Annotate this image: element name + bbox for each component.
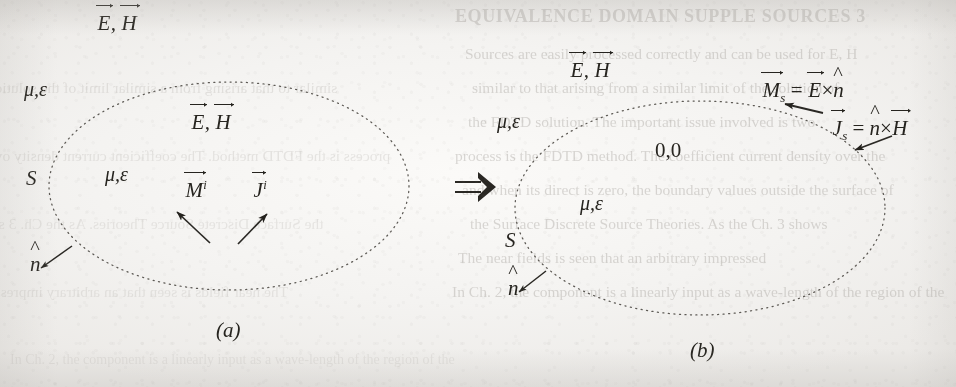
epsilon-symbol: ε xyxy=(512,110,520,132)
js-symbol: J xyxy=(832,116,842,141)
bleed-heading: EQUIVALENCE DOMAIN SUPPLE SOURCES 3 xyxy=(455,6,866,27)
h-field-symbol: H xyxy=(215,110,231,135)
scan-vignette xyxy=(0,0,956,387)
impressed-magnetic-label-a: Mi xyxy=(185,178,207,203)
equals-sign: = xyxy=(791,78,803,102)
js-subscript: s xyxy=(842,128,847,143)
bleed-line: similar to that arising from a similar l… xyxy=(0,79,337,97)
h-field-symbol: H xyxy=(121,11,137,36)
impressed-electric-label-a: Ji xyxy=(253,178,267,203)
normal-label-a: n xyxy=(30,252,41,277)
e-field-symbol: E xyxy=(97,11,111,36)
normal-arrow-a xyxy=(41,246,72,268)
boundary-ellipse-b xyxy=(515,101,885,315)
bleed-line: process is the FDTD method. The coeffici… xyxy=(0,147,390,165)
bleed-line: and when its direct is zero, the boundar… xyxy=(462,181,894,199)
h-field-symbol: H xyxy=(594,58,610,83)
e-field-symbol: E xyxy=(570,58,584,83)
interior-medium-label-a: μ,ε xyxy=(105,163,128,186)
m-source-superscript: i xyxy=(203,178,207,192)
cross-product-sign: × xyxy=(821,78,833,102)
interior-fields-label-a: E, H xyxy=(191,110,231,135)
interior-medium-label-b: μ,ε xyxy=(580,192,603,215)
field-comma: , xyxy=(584,58,589,82)
mu-symbol: μ xyxy=(105,163,115,185)
j-source-superscript: i xyxy=(263,178,267,192)
exterior-medium-label-b: μ,ε xyxy=(497,110,520,133)
normal-arrow-b xyxy=(519,271,546,292)
equals-sign: = xyxy=(852,116,864,140)
figure-canvas: EQUIVALENCE DOMAIN SUPPLE SOURCES 3 Sour… xyxy=(0,0,956,387)
normal-label-b: n xyxy=(508,276,519,301)
mu-symbol: μ xyxy=(497,110,507,132)
bleed-line: Sources are easily processed correctly a… xyxy=(465,45,858,63)
exterior-medium-label-a: μ,ε xyxy=(24,78,47,101)
epsilon-symbol: ε xyxy=(39,78,47,100)
ms-subscript: s xyxy=(780,90,785,105)
impressed-magnetic-arrow-a xyxy=(177,212,210,243)
bleed-line: the FDTD solution. The important issue i… xyxy=(468,113,815,131)
equation-electric-surface-current: Js = n×H xyxy=(832,116,908,144)
bleed-line: the Surface Discrete Source Theories. As… xyxy=(0,215,323,233)
epsilon-symbol: ε xyxy=(120,163,128,185)
impressed-electric-arrow-a xyxy=(238,214,267,244)
bleed-line: In Ch. 2, the component is a linearly in… xyxy=(10,352,455,368)
field-comma: , xyxy=(205,110,210,134)
e-field-symbol: E xyxy=(808,78,822,103)
n-hat-symbol: n xyxy=(870,116,881,141)
surface-label-a: S xyxy=(26,166,37,191)
cross-product-sign: × xyxy=(880,116,892,140)
caption-b: (b) xyxy=(690,338,715,363)
exterior-fields-label-a: E, H xyxy=(97,11,137,36)
n-hat-symbol: n xyxy=(30,252,41,277)
mu-symbol: μ xyxy=(580,192,590,214)
mu-symbol: μ xyxy=(24,78,34,100)
exterior-fields-label-b: E, H xyxy=(570,58,610,83)
m-source-symbol: M xyxy=(185,178,203,203)
paper-grain-texture xyxy=(0,0,956,387)
field-comma: , xyxy=(111,11,116,35)
implication-arrow xyxy=(455,172,496,202)
epsilon-symbol: ε xyxy=(595,192,603,214)
h-field-symbol: H xyxy=(892,116,908,141)
surface-label-b: S xyxy=(505,228,516,253)
bleed-line: the Surface Discrete Source Theories. As… xyxy=(470,215,827,233)
j-source-symbol: J xyxy=(253,178,263,203)
bleed-line: In Ch. 2, the component is a linearly in… xyxy=(452,283,944,301)
n-hat-symbol: n xyxy=(833,78,844,103)
bleed-line: The near fields is seen that an arbitrar… xyxy=(0,283,288,301)
equation-magnetic-surface-current: Ms = E×n xyxy=(762,78,844,106)
figure-vector-overlay xyxy=(0,0,956,387)
caption-a: (a) xyxy=(216,318,241,343)
e-field-symbol: E xyxy=(191,110,205,135)
ms-symbol: M xyxy=(762,78,780,103)
interior-fields-label-b: 0,0 xyxy=(655,138,681,163)
n-hat-symbol: n xyxy=(508,276,519,301)
